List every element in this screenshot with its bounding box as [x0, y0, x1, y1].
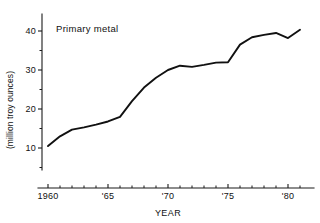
x-tick-label: '80: [282, 191, 294, 201]
x-axis-minor-ticks: [60, 186, 300, 189]
x-tick-label: '70: [162, 191, 174, 201]
chart-page: 10203040 1960'65'70'75'80 YEAR (million …: [0, 0, 320, 223]
x-tick-label: '75: [222, 191, 234, 201]
y-axis-tick-labels: 10203040: [26, 26, 36, 153]
series-annotation-label: Primary metal: [56, 23, 119, 34]
x-axis-title: YEAR: [155, 208, 181, 218]
y-tick-label: 10: [26, 143, 36, 153]
plot-axes: [38, 14, 314, 188]
y-tick-label: 20: [26, 104, 36, 114]
x-tick-label: 1960: [38, 191, 59, 201]
x-axis-tick-labels: 1960'65'70'75'80: [38, 191, 295, 201]
x-tick-label: '65: [102, 191, 114, 201]
data-series-group: [48, 30, 300, 146]
series-line-primary-metal: [48, 30, 300, 146]
y-axis-title: (million troy ounces): [5, 71, 15, 149]
y-tick-label: 30: [26, 65, 36, 75]
y-tick-label: 40: [26, 26, 36, 36]
line-chart: 10203040 1960'65'70'75'80 YEAR (million …: [0, 0, 320, 223]
